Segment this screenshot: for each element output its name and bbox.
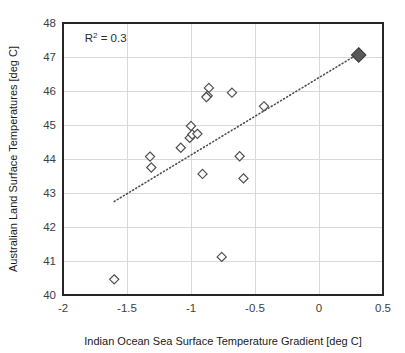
scatter-chart: 404142434445464748-2-1.5-1-0.500.5Indian… [0, 0, 405, 353]
y-tick-label: 48 [43, 17, 56, 29]
x-tick-label: -0.5 [245, 302, 265, 314]
y-tick-label: 45 [43, 119, 56, 131]
x-axis-title: Indian Ocean Sea Surface Temperature Gra… [84, 335, 361, 347]
plot-canvas: 404142434445464748-2-1.5-1-0.500.5Indian… [0, 0, 405, 353]
x-tick-label: -1.5 [117, 302, 137, 314]
x-tick-label: 0 [316, 302, 322, 314]
y-tick-label: 44 [43, 153, 56, 165]
annotation-r-squared: R2 = 0.3 [85, 31, 127, 45]
x-tick-label: 0.5 [375, 302, 391, 314]
y-tick-label: 42 [43, 221, 56, 233]
y-tick-label: 47 [43, 51, 56, 63]
x-tick-label: -1 [186, 302, 196, 314]
x-tick-label: -2 [58, 302, 68, 314]
y-tick-label: 40 [43, 289, 56, 301]
y-tick-label: 41 [43, 255, 56, 267]
y-axis-title: Australian Land Surface Temperatures [de… [7, 46, 19, 272]
y-tick-label: 43 [43, 187, 56, 199]
y-axis-ticks: 404142434445464748 [43, 17, 56, 301]
x-axis-ticks: -2-1.5-1-0.500.5 [58, 302, 391, 314]
y-tick-label: 46 [43, 85, 56, 97]
